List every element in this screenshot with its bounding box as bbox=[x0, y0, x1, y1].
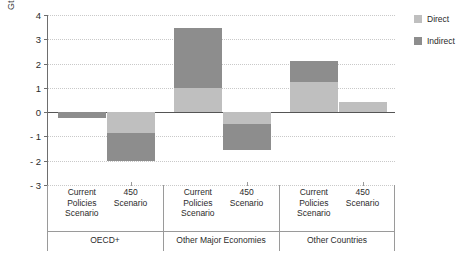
group-label-2: Other Countries bbox=[279, 235, 395, 245]
bar-segment-indirect-2 bbox=[174, 28, 222, 88]
y-tick-mark-2 bbox=[44, 64, 48, 65]
y-tick-label-0: 0 bbox=[36, 107, 41, 118]
legend-swatch-direct bbox=[414, 15, 422, 23]
bar-5 bbox=[339, 15, 387, 185]
scenario-label-line: 450 bbox=[97, 187, 165, 198]
chart-container: Gt 43210- 1- 2- 3 CurrentPoliciesScenari… bbox=[0, 0, 471, 255]
legend-swatch-indirect bbox=[414, 37, 422, 45]
category-label-3: 450Scenario bbox=[213, 187, 281, 208]
y-tick-mark--2 bbox=[44, 161, 48, 162]
bar-segment-direct-5 bbox=[339, 102, 387, 112]
bar-segment-indirect-4 bbox=[290, 61, 338, 82]
y-axis-unit-label: Gt bbox=[6, 0, 16, 10]
category-tick-1 bbox=[131, 182, 132, 186]
y-tick-mark-3 bbox=[44, 39, 48, 40]
group-label-1: Other Major Economies bbox=[163, 235, 279, 245]
scenario-label-line: Scenario bbox=[164, 208, 232, 219]
chart-legend: Direct Indirect bbox=[414, 14, 470, 58]
category-axis: CurrentPoliciesScenario450ScenarioCurren… bbox=[47, 185, 395, 251]
bar-segment-direct-4 bbox=[290, 82, 338, 112]
bar-0 bbox=[58, 15, 106, 185]
plot-area: 43210- 1- 2- 3 bbox=[47, 15, 395, 185]
bar-segment-direct-1 bbox=[107, 112, 155, 133]
bar-2 bbox=[174, 15, 222, 185]
legend-label-direct: Direct bbox=[427, 14, 449, 24]
scenario-label-line: 450 bbox=[213, 187, 281, 198]
category-axis-divider bbox=[47, 231, 395, 232]
bar-segment-direct-3 bbox=[223, 112, 271, 124]
y-tick-label--1: - 1 bbox=[30, 131, 41, 142]
bar-segment-indirect-3 bbox=[223, 124, 271, 150]
category-label-1: 450Scenario bbox=[97, 187, 165, 208]
y-tick-label--3: - 3 bbox=[30, 180, 41, 191]
y-tick-label-4: 4 bbox=[36, 10, 41, 21]
y-tick-mark-0 bbox=[44, 112, 48, 113]
scenario-label-line: Scenario bbox=[48, 208, 116, 219]
legend-label-indirect: Indirect bbox=[427, 36, 455, 46]
scenario-label-line: 450 bbox=[329, 187, 397, 198]
bar-segment-indirect-1 bbox=[107, 133, 155, 161]
y-tick-mark--1 bbox=[44, 136, 48, 137]
bar-4 bbox=[290, 15, 338, 185]
scenario-label-line: Scenario bbox=[213, 198, 281, 209]
y-tick-mark-1 bbox=[44, 88, 48, 89]
bar-segment-indirect-0 bbox=[58, 112, 106, 118]
category-label-5: 450Scenario bbox=[329, 187, 397, 208]
y-tick-label-1: 1 bbox=[36, 82, 41, 93]
scenario-label-line: Scenario bbox=[97, 198, 165, 209]
bar-3 bbox=[223, 15, 271, 185]
category-tick-3 bbox=[247, 182, 248, 186]
scenario-label-line: Scenario bbox=[329, 198, 397, 209]
legend-item-indirect: Indirect bbox=[414, 36, 470, 46]
scenario-label-line: Scenario bbox=[280, 208, 348, 219]
y-tick-label-3: 3 bbox=[36, 34, 41, 45]
bar-segment-direct-2 bbox=[174, 88, 222, 112]
bar-1 bbox=[107, 15, 155, 185]
y-tick-label--2: - 2 bbox=[30, 155, 41, 166]
group-label-0: OECD+ bbox=[47, 235, 163, 245]
category-tick-5 bbox=[363, 182, 364, 186]
y-tick-mark-4 bbox=[44, 15, 48, 16]
legend-item-direct: Direct bbox=[414, 14, 470, 24]
y-tick-label-2: 2 bbox=[36, 58, 41, 69]
